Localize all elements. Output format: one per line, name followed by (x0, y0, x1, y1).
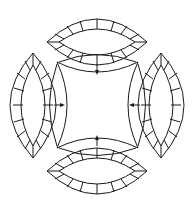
bottom-ring-lower-dividers (55, 174, 139, 194)
top-ring-upper-dividers (55, 19, 139, 39)
center-concave-square (57, 62, 138, 148)
top-ring (47, 19, 147, 65)
bottom-ring (47, 148, 147, 194)
quilt-diagram (0, 0, 194, 205)
arrow-up-icon (95, 135, 99, 146)
right-ring (138, 53, 184, 158)
diagram-canvas (0, 0, 194, 205)
arrow-down-icon (95, 64, 99, 75)
